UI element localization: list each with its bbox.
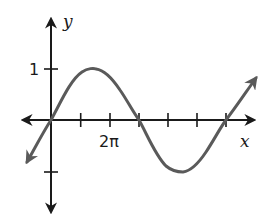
sine-graph: y x 1 2π [0,0,263,214]
x-tick-label-2pi: 2π [99,132,119,151]
x-axis-label: x [240,131,250,151]
y-tick-label-1: 1 [29,60,39,79]
y-axis-label: y [62,11,73,31]
